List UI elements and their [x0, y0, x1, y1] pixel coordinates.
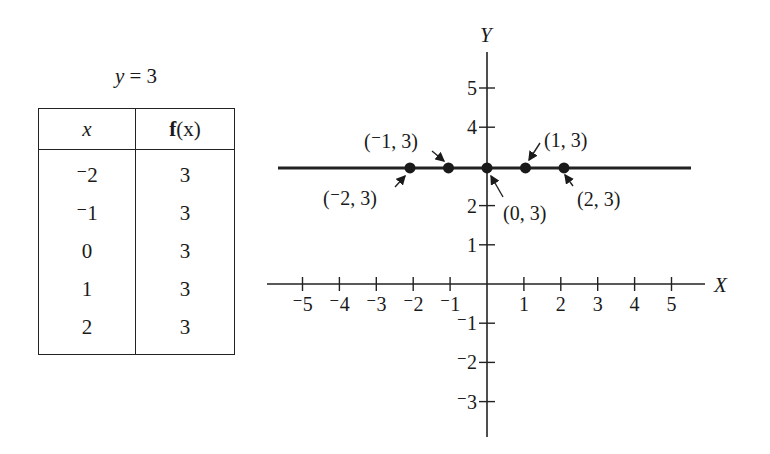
x-axis-label: X [713, 273, 728, 297]
arrow-neg2 [395, 176, 405, 187]
arrow-1 [529, 143, 540, 160]
coordinate-plane: X Y ⁻5⁻4⁻3⁻2⁻112345 5421⁻1⁻2⁻3 (⁻2, 3) (… [0, 0, 770, 454]
annotation-1: (1, 3) [544, 129, 587, 152]
y-tick-label: ⁻3 [456, 391, 477, 413]
y-tick-label: ⁻1 [456, 312, 477, 334]
x-tick-label: 2 [556, 293, 566, 315]
x-tick-label: ⁻2 [403, 293, 424, 315]
x-tick-label: ⁻5 [292, 293, 313, 315]
arrow-0 [491, 176, 503, 197]
x-tick-label: 4 [630, 293, 640, 315]
data-point [520, 162, 531, 173]
axes: X Y [267, 23, 728, 437]
y-tick-label: 4 [467, 116, 477, 138]
x-tick-label: ⁻4 [329, 293, 350, 315]
y-ticks: 5421⁻1⁻2⁻3 [456, 77, 495, 413]
annotation-neg2: (⁻2, 3) [323, 187, 377, 210]
data-point [559, 162, 570, 173]
x-ticks: ⁻5⁻4⁻3⁻2⁻112345 [292, 277, 676, 315]
x-tick-label: ⁻3 [366, 293, 387, 315]
arrow-neg1 [432, 151, 444, 161]
arrow-2 [565, 175, 573, 186]
y-axis-label: Y [480, 23, 494, 47]
data-point [443, 162, 454, 173]
y-tick-label: 2 [467, 195, 477, 217]
x-tick-label: 1 [519, 293, 529, 315]
x-tick-label: 3 [593, 293, 603, 315]
annotation-0: (0, 3) [503, 202, 546, 225]
data-point [482, 162, 493, 173]
x-tick-label: 5 [667, 293, 677, 315]
data-point [405, 162, 416, 173]
y-tick-label: ⁻2 [456, 351, 477, 373]
annotation-neg1: (⁻1, 3) [364, 130, 418, 153]
annotation-2: (2, 3) [577, 188, 620, 211]
y-tick-label: 1 [467, 234, 477, 256]
y-tick-label: 5 [467, 77, 477, 99]
